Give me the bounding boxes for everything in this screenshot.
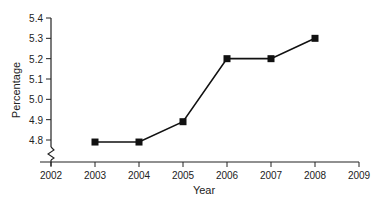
x-tick-label: 2009: [348, 170, 371, 181]
line-chart: 4.84.95.05.15.25.35.4 200220032004200520…: [0, 0, 380, 203]
data-point-marker: [136, 139, 143, 146]
y-axis: 4.84.95.05.15.25.35.4: [29, 13, 54, 166]
x-tick-label: 2002: [40, 170, 63, 181]
y-tick-label: 5.2: [29, 54, 43, 65]
y-tick-label: 5.0: [29, 94, 43, 105]
x-tick-label: 2008: [304, 170, 327, 181]
y-tick-label: 5.1: [29, 74, 43, 85]
data-point-marker: [224, 55, 231, 62]
data-series: [92, 35, 319, 146]
y-tick-label: 5.3: [29, 33, 43, 44]
x-tick-label: 2007: [260, 170, 283, 181]
data-point-marker: [180, 118, 187, 125]
data-point-marker: [268, 55, 275, 62]
x-tick-label: 2006: [216, 170, 239, 181]
x-tick-label: 2005: [172, 170, 195, 181]
y-axis-label: Percentage: [10, 62, 22, 118]
y-tick-label: 4.8: [29, 135, 43, 146]
x-axis: 20022003200420052006200720082009: [40, 162, 371, 181]
axis-break-icon: [48, 147, 54, 160]
x-axis-label: Year: [193, 184, 216, 196]
x-tick-label: 2003: [84, 170, 107, 181]
data-point-marker: [312, 35, 319, 42]
y-tick-label: 4.9: [29, 115, 43, 126]
series-line: [95, 38, 315, 142]
x-tick-label: 2004: [128, 170, 151, 181]
y-tick-label: 5.4: [29, 13, 43, 24]
data-point-marker: [92, 139, 99, 146]
